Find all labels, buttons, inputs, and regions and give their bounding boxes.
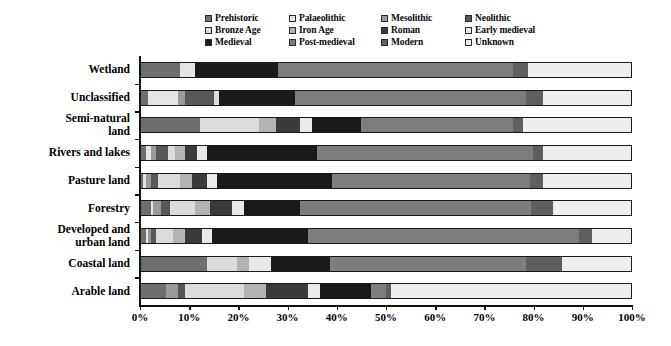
legend-item-neolithic[interactable]: Neolithic <box>465 13 561 24</box>
bar-segment-early-medieval[interactable] <box>300 118 312 132</box>
bar-segment-unknown[interactable] <box>528 63 631 77</box>
bar-segment-neolithic[interactable] <box>185 91 214 105</box>
legend-item-early-medieval[interactable]: Early medieval <box>465 25 561 36</box>
y-axis-label-arable-land: Arable land <box>0 285 130 298</box>
bar-segment-prehistoric[interactable] <box>141 201 151 215</box>
legend-item-post-medieval[interactable]: Post-medieval <box>289 37 381 48</box>
bar-segment-prehistoric[interactable] <box>141 91 148 105</box>
bar-segment-iron-age[interactable] <box>175 146 185 160</box>
bar-segment-medieval[interactable] <box>219 91 295 105</box>
bar-segment-iron-age[interactable] <box>173 229 185 243</box>
legend-item-palaeolithic[interactable]: Palaeolithic <box>289 13 381 24</box>
bar-segment-bronze-age[interactable] <box>200 118 259 132</box>
bar-segment-medieval[interactable] <box>207 146 317 160</box>
bar-row[interactable] <box>140 145 632 161</box>
bar-segment-iron-age[interactable] <box>195 201 210 215</box>
bar-segment-palaeolithic[interactable] <box>148 91 177 105</box>
bar-segment-unknown[interactable] <box>543 174 631 188</box>
bar-segment-post-medieval[interactable] <box>278 63 513 77</box>
bar-segment-neolithic[interactable] <box>151 174 158 188</box>
bar-segment-neolithic[interactable] <box>178 284 185 298</box>
bar-segment-bronze-age[interactable] <box>158 174 180 188</box>
bar-row[interactable] <box>140 256 632 272</box>
bar-segment-modern[interactable] <box>531 201 553 215</box>
legend-item-mesolithic[interactable]: Mesolithic <box>381 13 465 24</box>
bar-segment-bronze-age[interactable] <box>207 257 236 271</box>
bar-segment-prehistoric[interactable] <box>141 118 200 132</box>
bar-segment-medieval[interactable] <box>195 63 278 77</box>
bar-row[interactable] <box>140 228 632 244</box>
bar-segment-bronze-age[interactable] <box>185 284 244 298</box>
legend-item-bronze-age[interactable]: Bronze Age <box>205 25 289 36</box>
bar-segment-post-medieval[interactable] <box>371 284 386 298</box>
bar-segment-roman[interactable] <box>185 146 197 160</box>
bar-row[interactable] <box>140 200 632 216</box>
bar-segment-palaeolithic[interactable] <box>180 63 195 77</box>
bar-segment-post-medieval[interactable] <box>361 118 513 132</box>
bar-segment-modern[interactable] <box>533 146 543 160</box>
bar-segment-early-medieval[interactable] <box>232 201 244 215</box>
bar-row[interactable] <box>140 117 632 133</box>
bar-segment-post-medieval[interactable] <box>317 146 533 160</box>
bar-segment-modern[interactable] <box>526 91 543 105</box>
bar-segment-post-medieval[interactable] <box>308 229 580 243</box>
bar-segment-neolithic[interactable] <box>156 146 168 160</box>
bar-segment-post-medieval[interactable] <box>330 257 526 271</box>
bar-segment-neolithic[interactable] <box>161 201 171 215</box>
bar-segment-roman[interactable] <box>192 174 207 188</box>
bar-row[interactable] <box>140 173 632 189</box>
bar-segment-roman[interactable] <box>210 201 232 215</box>
bar-segment-iron-age[interactable] <box>180 174 192 188</box>
bar-segment-roman[interactable] <box>185 229 202 243</box>
bar-segment-roman[interactable] <box>276 118 301 132</box>
bar-segment-bronze-age[interactable] <box>168 146 175 160</box>
legend-item-prehistoric[interactable]: Prehistoric <box>205 13 289 24</box>
bar-segment-unknown[interactable] <box>543 146 631 160</box>
bar-row[interactable] <box>140 62 632 78</box>
bar-segment-early-medieval[interactable] <box>207 174 217 188</box>
legend-item-roman[interactable]: Roman <box>381 25 465 36</box>
bar-segment-unknown[interactable] <box>523 118 631 132</box>
bar-segment-modern[interactable] <box>579 229 591 243</box>
bar-segment-iron-age[interactable] <box>244 284 266 298</box>
bar-segment-iron-age[interactable] <box>259 118 276 132</box>
bar-segment-medieval[interactable] <box>271 257 330 271</box>
bar-segment-post-medieval[interactable] <box>332 174 530 188</box>
bar-segment-medieval[interactable] <box>217 174 332 188</box>
legend-item-unknown[interactable]: Unknown <box>465 37 561 48</box>
bar-segment-roman[interactable] <box>266 284 308 298</box>
bar-segment-mesolithic[interactable] <box>178 91 185 105</box>
bar-segment-unknown[interactable] <box>543 91 631 105</box>
bar-segment-iron-age[interactable] <box>237 257 249 271</box>
bar-segment-modern[interactable] <box>513 118 523 132</box>
bar-segment-mesolithic[interactable] <box>153 201 160 215</box>
bar-row[interactable] <box>140 283 632 299</box>
bar-segment-early-medieval[interactable] <box>308 284 320 298</box>
bar-segment-medieval[interactable] <box>312 118 361 132</box>
bar-segment-post-medieval[interactable] <box>295 91 525 105</box>
bar-segment-unknown[interactable] <box>391 284 631 298</box>
bar-segment-post-medieval[interactable] <box>300 201 530 215</box>
bar-segment-unknown[interactable] <box>592 229 631 243</box>
bar-segment-early-medieval[interactable] <box>249 257 271 271</box>
bar-row[interactable] <box>140 90 632 106</box>
bar-segment-early-medieval[interactable] <box>197 146 207 160</box>
bar-segment-modern[interactable] <box>530 174 542 188</box>
legend-item-modern[interactable]: Modern <box>381 37 465 48</box>
bar-segment-prehistoric[interactable] <box>141 257 207 271</box>
bar-segment-prehistoric[interactable] <box>141 284 166 298</box>
bar-segment-medieval[interactable] <box>320 284 371 298</box>
bar-segment-bronze-age[interactable] <box>170 201 195 215</box>
bar-segment-early-medieval[interactable] <box>202 229 212 243</box>
bar-segment-modern[interactable] <box>526 257 563 271</box>
bar-segment-mesolithic[interactable] <box>166 284 178 298</box>
bar-segment-prehistoric[interactable] <box>141 63 180 77</box>
bar-segment-medieval[interactable] <box>244 201 300 215</box>
legend-item-medieval[interactable]: Medieval <box>205 37 289 48</box>
legend-item-iron-age[interactable]: Iron Age <box>289 25 381 36</box>
bar-segment-bronze-age[interactable] <box>156 229 173 243</box>
bar-segment-unknown[interactable] <box>553 201 631 215</box>
bar-segment-modern[interactable] <box>513 63 528 77</box>
bar-segment-medieval[interactable] <box>212 229 308 243</box>
bar-segment-unknown[interactable] <box>562 257 631 271</box>
